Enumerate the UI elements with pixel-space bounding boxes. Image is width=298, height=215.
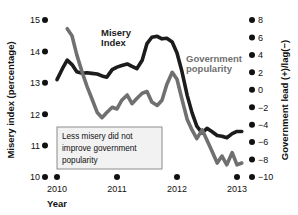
y-tick-dot xyxy=(42,48,48,54)
x-tick-label: 2010 xyxy=(47,184,67,194)
y2-tick-dot xyxy=(249,157,255,163)
y2-tick-label: 0 xyxy=(258,85,263,95)
y-tick-dot xyxy=(42,111,48,117)
y-axis-tick-labels: 101112131415 xyxy=(30,15,40,182)
x-tick-label: 2011 xyxy=(107,184,126,194)
y-axis-title: Misery index (percentage) xyxy=(5,41,16,158)
y-tick-dot xyxy=(42,17,48,23)
y-axis-tick-dots xyxy=(42,17,48,180)
y-tick-label: 10 xyxy=(30,172,40,182)
x-tick-dot xyxy=(54,174,60,180)
y2-tick-dot xyxy=(249,17,255,23)
y2-tick-label: 8 xyxy=(258,15,263,25)
chart-svg: 101112131415 86420−2−4−6−8−10 2010201120… xyxy=(0,0,298,215)
y-tick-label: 14 xyxy=(30,47,40,57)
x-tick-dot xyxy=(234,174,240,180)
y-tick-dot xyxy=(42,143,48,149)
x-axis-tick-labels: 2010201120122013 xyxy=(47,184,247,194)
y-tick-dot xyxy=(42,80,48,86)
chart-container: 101112131415 86420−2−4−6−8−10 2010201120… xyxy=(0,0,298,215)
y2-axis-title: Government lead (+)/lag(−) xyxy=(279,40,290,160)
y-tick-label: 11 xyxy=(31,141,40,151)
y-tick-dot xyxy=(42,174,48,180)
y2-tick-label: 2 xyxy=(258,68,263,78)
y2-tick-label: −6 xyxy=(258,137,268,147)
y2-tick-label: 4 xyxy=(258,50,263,60)
annotation-line-2: improve government xyxy=(62,144,137,153)
y2-axis-tick-dots xyxy=(249,17,255,180)
y2-tick-label: −8 xyxy=(258,155,268,165)
x-tick-dot xyxy=(174,174,180,180)
y2-tick-label: −2 xyxy=(258,103,268,113)
y2-tick-label: −10 xyxy=(258,172,273,182)
x-tick-dot xyxy=(114,174,120,180)
series-line-misery-index xyxy=(57,36,242,137)
y-tick-label: 12 xyxy=(30,110,40,120)
annotation-line-3: popularity xyxy=(62,156,98,165)
y2-tick-dot xyxy=(249,87,255,93)
y2-tick-dot xyxy=(249,122,255,128)
x-axis-tick-dots xyxy=(54,174,240,180)
series-label-government-popularity-line2: popularity xyxy=(186,63,233,74)
y-tick-label: 15 xyxy=(30,15,40,25)
y2-tick-dot xyxy=(249,104,255,110)
series-label-misery-index-line2: Index xyxy=(101,37,127,48)
y2-tick-label: 6 xyxy=(258,33,263,43)
y2-axis-tick-labels: 86420−2−4−6−8−10 xyxy=(258,15,273,182)
y-tick-label: 13 xyxy=(30,78,40,88)
y2-tick-dot xyxy=(249,34,255,40)
x-tick-label: 2012 xyxy=(167,184,187,194)
y2-tick-dot xyxy=(249,52,255,58)
y2-tick-dot xyxy=(249,174,255,180)
x-axis-title: Year xyxy=(47,198,67,209)
x-tick-label: 2013 xyxy=(227,184,247,194)
annotation-line-1: Less misery did not xyxy=(62,132,133,141)
y2-tick-dot xyxy=(249,139,255,145)
y2-tick-dot xyxy=(249,69,255,75)
y2-tick-label: −4 xyxy=(258,120,268,130)
